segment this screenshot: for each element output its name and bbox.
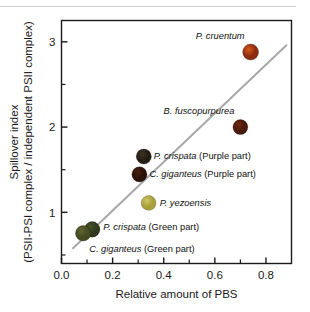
data-point-marker[interactable] bbox=[132, 167, 147, 182]
data-point-marker[interactable] bbox=[136, 149, 151, 164]
data-point-marker[interactable] bbox=[243, 44, 259, 60]
y-tick-label: 1 bbox=[49, 207, 55, 219]
data-point[interactable]: P. cruentum (0.74, 2.88) bbox=[243, 44, 259, 60]
data-point-label: P. yezoensis bbox=[160, 198, 212, 208]
data-point-marker[interactable] bbox=[233, 120, 248, 135]
data-point-label: P. crispata (Green part) bbox=[103, 222, 199, 232]
data-point[interactable]: C. giganteus (Purple part) (0.305, 1.445… bbox=[132, 167, 147, 182]
data-point-label: P. crispata (Purple part) bbox=[154, 151, 251, 161]
x-axis-title: Relative amount of PBS bbox=[115, 288, 237, 300]
data-point[interactable]: P. yezoensis (0.341, 1.11) bbox=[141, 196, 156, 211]
scatter-plot: 1230.00.20.40.60.8P. cruentum (0.74, 2.8… bbox=[0, 0, 310, 312]
data-point[interactable]: B. fuscopurpurea (0.7, 2) bbox=[233, 120, 248, 135]
data-point-label: B. fuscopurpurea bbox=[164, 106, 235, 116]
x-tick-label: 0.4 bbox=[156, 269, 173, 281]
data-point-label: C. giganteus (Green part) bbox=[89, 244, 194, 254]
x-tick-label: 0.2 bbox=[105, 269, 121, 281]
x-tick-label: 0.8 bbox=[258, 269, 274, 281]
y-tick-label: 3 bbox=[49, 36, 55, 48]
data-point-marker[interactable] bbox=[141, 196, 156, 211]
x-tick-label: 0.6 bbox=[207, 269, 223, 281]
data-point-marker[interactable] bbox=[75, 225, 91, 241]
y-tick-label: 2 bbox=[49, 121, 55, 133]
figure-container: 1230.00.20.40.60.8P. cruentum (0.74, 2.8… bbox=[0, 0, 310, 312]
data-point-label: P. cruentum bbox=[196, 31, 245, 41]
y-axis-title-line1: Spillover index bbox=[8, 104, 20, 179]
trend-line bbox=[73, 45, 286, 248]
y-axis-title-line2: (PSII-PSI complex / independent PSII com… bbox=[22, 21, 34, 263]
data-point[interactable]: C. giganteus (Green part) (0.085, 0.755) bbox=[75, 225, 91, 241]
data-point[interactable]: P. crispata (Purple part) (0.322, 1.655) bbox=[136, 149, 151, 164]
data-point-label: C. giganteus (Purple part) bbox=[149, 169, 255, 179]
x-tick-label: 0.0 bbox=[54, 269, 70, 281]
